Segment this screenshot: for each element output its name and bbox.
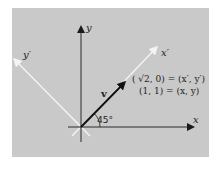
vector-label: v	[101, 89, 107, 99]
axes-and-vector-graphic	[0, 0, 218, 169]
y-prime-axis-label: y′	[23, 50, 31, 60]
x-prime-axis-label: x′	[161, 48, 169, 58]
y-axis-label: y	[86, 23, 92, 33]
equation-original-coords: (1, 1) = (x, y)	[139, 87, 199, 96]
y-prime-axis	[15, 60, 90, 136]
equation-rotated-coords: ( √2, 0) = (x′, y′)	[132, 75, 205, 84]
rotation-of-axes-diagram: y x y′ x′ v 45° ( √2, 0) = (x′, y′) (1, …	[0, 0, 218, 169]
x-axis-label: x	[193, 115, 199, 125]
angle-label: 45°	[97, 116, 113, 125]
